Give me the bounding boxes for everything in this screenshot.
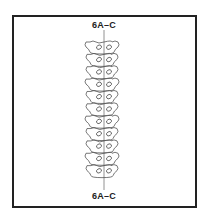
pedicle-oval (96, 81, 103, 87)
vertebra (85, 152, 119, 165)
vertebra (86, 103, 118, 116)
vertebra (85, 78, 119, 91)
pedicle-oval (96, 155, 103, 161)
pedicle-oval (106, 57, 113, 63)
pedicle-oval (106, 69, 113, 75)
pedicle-oval (96, 106, 103, 112)
pedicle-oval (96, 44, 103, 50)
pedicle-oval (106, 131, 113, 137)
pedicle-oval (96, 131, 103, 137)
pedicle-oval (106, 155, 113, 161)
pedicle-oval (96, 57, 103, 63)
spine-illustration (0, 0, 208, 222)
vertebra (85, 115, 119, 128)
pedicle-oval (96, 143, 103, 149)
vertebra (86, 90, 118, 103)
pedicle-oval (106, 44, 113, 50)
pedicle-oval (106, 106, 113, 112)
vertebra (86, 53, 118, 66)
pedicle-oval (106, 118, 113, 124)
vertebra (85, 41, 119, 54)
pedicle-oval (106, 143, 113, 149)
pedicle-oval (96, 69, 103, 75)
pedicle-oval (96, 168, 103, 174)
pedicle-oval (96, 118, 103, 124)
pedicle-oval (106, 94, 113, 100)
pedicle-oval (96, 94, 103, 100)
vertebra (86, 128, 118, 141)
vertebra (86, 140, 118, 153)
pedicle-oval (106, 81, 113, 87)
vertebra (86, 165, 118, 178)
pedicle-oval (106, 168, 113, 174)
vertebra (86, 66, 118, 79)
